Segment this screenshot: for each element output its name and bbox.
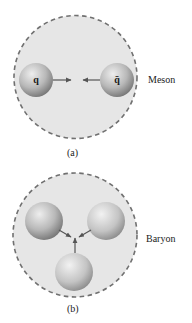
caption-b: (b): [67, 304, 79, 314]
hadron-diagram: [0, 0, 192, 323]
baryon-panel: [13, 173, 137, 297]
quark-label: q: [33, 75, 39, 85]
quark-sphere: [25, 202, 63, 240]
antiquark-label: q̄: [114, 75, 120, 85]
meson-label: Meson: [148, 75, 175, 85]
quark-sphere: [55, 253, 93, 291]
baryon-label: Baryon: [146, 234, 175, 244]
caption-a: (a): [67, 148, 78, 158]
quark-sphere: [87, 202, 125, 240]
